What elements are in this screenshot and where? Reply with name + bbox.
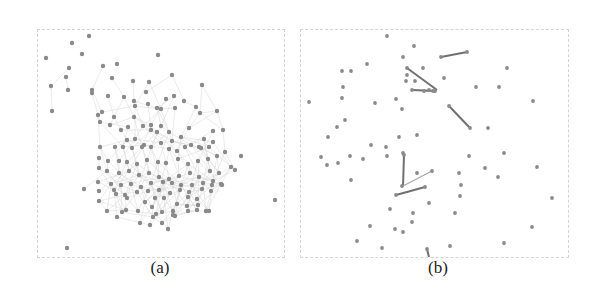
graph-node	[155, 130, 159, 134]
graph-node	[125, 196, 129, 200]
graph-node	[348, 154, 352, 158]
graph-node	[113, 145, 117, 149]
graph-node	[146, 189, 150, 193]
graph-node	[65, 246, 69, 250]
graph-node	[50, 109, 54, 113]
graph-node	[427, 88, 431, 92]
graph-node	[204, 209, 208, 213]
graph-node	[70, 41, 74, 45]
graph-node	[415, 133, 419, 137]
graph-node	[98, 145, 102, 149]
graph-node	[87, 34, 91, 38]
graph-node	[336, 161, 340, 165]
graph-node	[335, 125, 339, 129]
graph-node	[154, 212, 158, 216]
graph-node	[176, 157, 180, 161]
graph-node	[468, 126, 472, 130]
graph-node	[167, 147, 171, 151]
caption-a: (a)	[130, 258, 190, 278]
graph-node	[215, 154, 219, 158]
graph-node	[141, 124, 145, 128]
graph-node	[155, 106, 159, 110]
graph-node	[125, 138, 129, 142]
graph-node	[173, 106, 177, 110]
graph-node	[198, 111, 202, 115]
graph-node	[186, 162, 190, 166]
graph-node	[319, 155, 323, 159]
graph-node	[465, 50, 469, 54]
graph-node	[439, 55, 443, 59]
graph-node	[100, 110, 104, 114]
graph-node	[115, 62, 119, 66]
graph-node	[229, 165, 233, 169]
graph-node	[199, 146, 203, 150]
graph-node	[145, 158, 149, 162]
graph-node	[177, 174, 181, 178]
graph-node	[458, 194, 462, 198]
graph-b-canvas	[301, 30, 568, 257]
graph-node	[122, 95, 126, 99]
graph-node	[448, 244, 452, 248]
graph-node	[49, 84, 53, 88]
graph-node	[404, 79, 408, 83]
nodes-b	[307, 34, 554, 251]
graph-node	[502, 151, 506, 155]
graph-edge	[396, 187, 425, 195]
graph-node	[340, 96, 344, 100]
graph-node	[168, 191, 172, 195]
graph-node	[531, 99, 535, 103]
graph-node	[368, 224, 372, 228]
graph-node	[149, 128, 153, 132]
graph-node	[206, 157, 210, 161]
graph-node	[343, 118, 347, 122]
graph-node	[401, 55, 405, 59]
graph-node	[156, 53, 160, 57]
graph-node	[132, 115, 136, 119]
graph-node	[412, 44, 416, 48]
graph-node	[185, 204, 189, 208]
graph-node	[97, 189, 101, 193]
graph-edge	[407, 68, 437, 90]
graph-node	[195, 197, 199, 201]
graph-node	[239, 154, 243, 158]
graph-node	[425, 247, 429, 251]
graph-node	[67, 66, 71, 70]
graph-node	[160, 210, 164, 214]
graph-node	[167, 177, 171, 181]
graph-node	[413, 79, 417, 83]
graph-node	[90, 91, 94, 95]
graph-node	[44, 56, 48, 60]
graph-node	[66, 88, 70, 92]
graph-node	[496, 175, 500, 179]
edges-b	[396, 52, 470, 257]
graph-node	[130, 146, 134, 150]
graph-node	[119, 128, 123, 132]
graph-node	[427, 201, 431, 205]
graph-node	[139, 185, 143, 189]
graph-node	[400, 184, 404, 188]
graph-node	[96, 180, 100, 184]
graph-node	[410, 220, 414, 224]
graph-node	[233, 168, 237, 172]
graph-node	[219, 182, 223, 186]
graph-node	[447, 104, 451, 108]
graph-node	[153, 196, 157, 200]
graph-node	[530, 225, 534, 229]
graph-node	[150, 205, 154, 209]
graph-node	[397, 135, 401, 139]
graph-node	[149, 123, 153, 127]
graph-node	[146, 102, 150, 106]
graph-node	[422, 89, 426, 93]
graph-node	[430, 169, 434, 173]
graph-node	[505, 66, 509, 70]
graph-node	[211, 179, 215, 183]
graph-node	[211, 129, 215, 133]
graph-node	[349, 178, 353, 182]
graph-node	[112, 188, 116, 192]
graph-node	[385, 154, 389, 158]
graph-node	[82, 187, 86, 191]
graph-node	[210, 183, 214, 187]
panel-a-dense-graph	[37, 29, 285, 258]
graph-node	[167, 130, 171, 134]
graph-node	[431, 89, 435, 93]
